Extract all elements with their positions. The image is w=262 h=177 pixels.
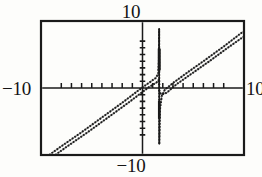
plot-series-1	[55, 36, 244, 155]
plot-canvas	[0, 0, 262, 177]
plot-series-0	[49, 29, 243, 155]
graph-figure: 10 −10 10 −10	[0, 0, 262, 177]
plot-series-group	[49, 29, 244, 155]
